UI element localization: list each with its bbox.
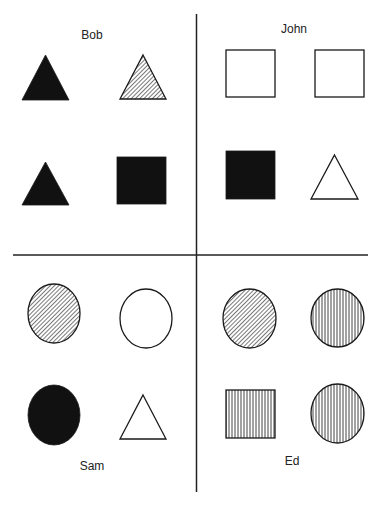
quadrant-label-bob: Bob (81, 28, 102, 42)
vertical-stripes-square-icon (226, 390, 275, 438)
quadrant-bob (22, 55, 166, 205)
vertical-stripes-circle-icon (311, 289, 364, 347)
vertical-stripes-circle-icon (311, 384, 364, 443)
solid-triangle-icon (22, 55, 69, 100)
shape-diagram (0, 0, 384, 507)
empty-triangle-icon (120, 395, 166, 439)
quadrant-john (226, 50, 364, 199)
quadrant-label-john: John (281, 22, 307, 36)
diagonal-hatch-circle-icon (223, 289, 276, 348)
quadrant-sam (28, 284, 172, 445)
quadrant-label-sam: Sam (80, 459, 105, 473)
empty-square-icon (226, 50, 275, 97)
quadrant-label-ed: Ed (285, 454, 300, 468)
solid-square-icon (117, 157, 166, 204)
solid-square-icon (226, 151, 275, 199)
solid-triangle-icon (22, 162, 69, 205)
solid-circle-icon (28, 385, 80, 445)
empty-triangle-icon (311, 155, 358, 199)
quadrant-ed (223, 289, 364, 443)
empty-circle-icon (120, 289, 172, 348)
shapes-layer (22, 50, 364, 445)
diagonal-hatch-circle-icon (28, 284, 80, 343)
empty-square-icon (315, 50, 364, 97)
diagonal-hatch-triangle-icon (120, 55, 166, 99)
